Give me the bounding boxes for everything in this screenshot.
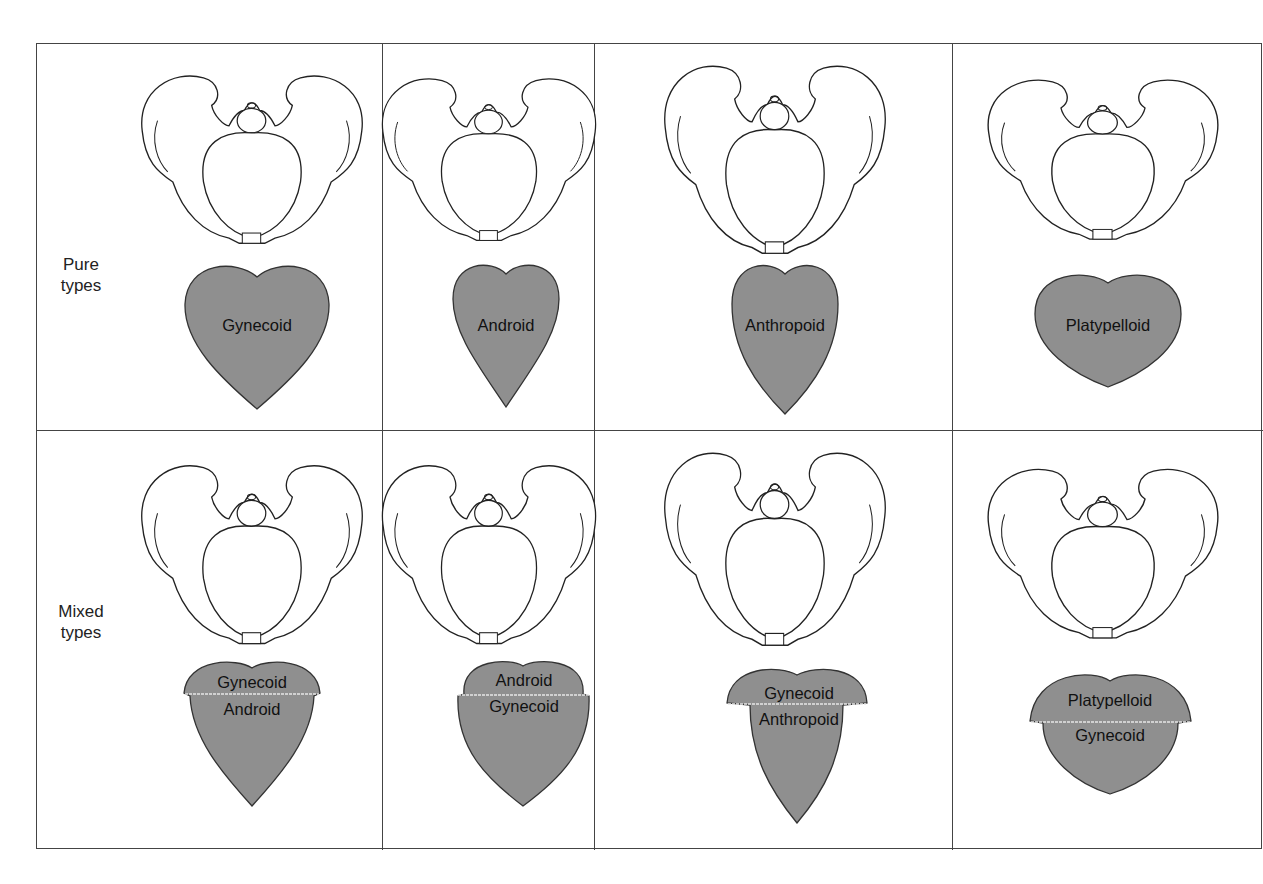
type-label-top: Android xyxy=(496,671,553,690)
type-label-top: Gynecoid xyxy=(764,684,834,703)
row-label-pure: Pure types xyxy=(51,254,111,296)
type-label-bottom: Gynecoid xyxy=(1075,726,1145,745)
type-label: Android xyxy=(478,316,535,335)
cell-mixed-gynecoid-android: Mixed types Gynecoid Android xyxy=(37,431,383,850)
cell-pure-platypelloid: Platypelloid xyxy=(953,44,1263,431)
type-label: Anthropoid xyxy=(745,316,825,335)
type-label-bottom: Gynecoid xyxy=(489,697,559,716)
inlet-shape xyxy=(730,259,840,417)
cell-mixed-platypelloid-gynecoid: Platypelloid Gynecoid xyxy=(953,431,1263,850)
pelvis-drawing xyxy=(655,446,895,651)
type-label-top: Gynecoid xyxy=(217,673,287,692)
row-label-mixed: Mixed types xyxy=(51,601,111,643)
type-label-bottom: Anthropoid xyxy=(759,710,839,729)
pelvis-drawing xyxy=(132,69,372,249)
cell-pure-android: Android xyxy=(383,44,595,431)
cell-mixed-gynecoid-anthropoid: Gynecoid Anthropoid xyxy=(595,431,953,850)
cell-pure-anthropoid: Anthropoid xyxy=(595,44,953,431)
pelvis-drawing xyxy=(978,74,1228,244)
pelvis-drawing xyxy=(655,59,895,259)
inlet-shape xyxy=(182,259,332,411)
type-label-bottom: Android xyxy=(224,700,281,719)
cell-pure-gynecoid: Pure types Gynecoid xyxy=(37,44,383,431)
type-label-top: Platypelloid xyxy=(1068,691,1152,710)
type-label: Gynecoid xyxy=(222,316,292,335)
pelvis-drawing xyxy=(373,69,605,249)
cell-mixed-android-gynecoid: Android Gynecoid xyxy=(383,431,595,850)
type-label: Platypelloid xyxy=(1066,316,1150,335)
pelvis-drawing xyxy=(132,459,372,649)
pelvis-drawing xyxy=(373,459,605,649)
pelvis-types-figure: Pure types Gynecoid Android Anthropoid P… xyxy=(36,43,1262,849)
pelvis-drawing xyxy=(978,463,1228,643)
